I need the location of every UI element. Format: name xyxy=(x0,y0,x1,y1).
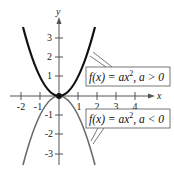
parabola-diagram: -2 -1 1 2 3 4 3 2 1 -1 -2 -3 x y f(x) = … xyxy=(0,0,174,169)
x-tick-label: 1 xyxy=(77,101,82,112)
downward-label-text: f(x) = ax2, a < 0 xyxy=(89,111,164,126)
y-tick-label: 2 xyxy=(47,51,52,62)
upward-label-pointer xyxy=(90,56,106,67)
upward-label-text: f(x) = ax2, a > 0 xyxy=(89,69,164,84)
x-tick-label: -1 xyxy=(34,101,42,112)
x-axis-arrow-icon xyxy=(148,94,155,99)
y-tick-label: -3 xyxy=(45,148,53,159)
y-tick-label: -1 xyxy=(45,109,53,120)
y-tick-label: -2 xyxy=(45,128,53,139)
axes xyxy=(10,22,150,165)
y-tick-label: 1 xyxy=(47,70,52,81)
y-axis-arrow-icon xyxy=(57,17,62,24)
downward-label-pointer xyxy=(93,128,104,144)
vertex-point xyxy=(56,93,62,99)
x-axis-label: x xyxy=(156,90,162,101)
downward-label-pointer xyxy=(91,128,98,141)
y-tick-label: 3 xyxy=(47,32,52,43)
x-tick-label: -2 xyxy=(17,101,25,112)
y-axis-label: y xyxy=(55,6,61,17)
